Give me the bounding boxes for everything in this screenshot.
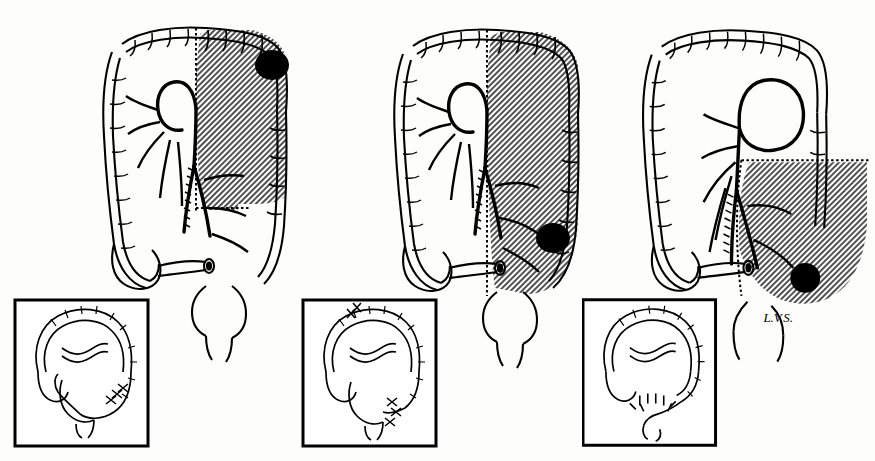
panel-left-hemicolectomy: colon after left hemicolectomy with anas…	[291, 0, 583, 461]
haustra-marks-left	[110, 29, 188, 248]
rectum-outlet	[483, 292, 537, 368]
cecum-and-appendix	[403, 246, 451, 291]
rectum-outlet	[192, 286, 246, 362]
panel-2-artwork	[291, 0, 583, 461]
figure-canvas: colon after resection with end-to-end an…	[0, 0, 875, 461]
haustra-marks-left	[401, 31, 479, 250]
ileum-stump	[698, 261, 754, 278]
inset-box-border	[15, 300, 148, 446]
artist-signature: L.V.S.	[762, 310, 793, 325]
cecum-and-appendix	[652, 246, 700, 291]
ileum-stump	[158, 259, 214, 276]
panel-3-artwork: L.V.S.	[582, 0, 874, 461]
panel-right-and-transverse-colectomy: colon after resection with end-to-end an…	[0, 0, 292, 461]
tumor-marker	[790, 263, 820, 293]
inset-box-border	[583, 300, 716, 446]
tumor-marker	[536, 223, 570, 253]
panel-sigmoid-resection: L.V.S. colon afte	[582, 0, 874, 461]
tumor-marker	[255, 50, 289, 80]
cecum-and-appendix	[112, 244, 160, 289]
panel-1-artwork	[0, 0, 292, 461]
